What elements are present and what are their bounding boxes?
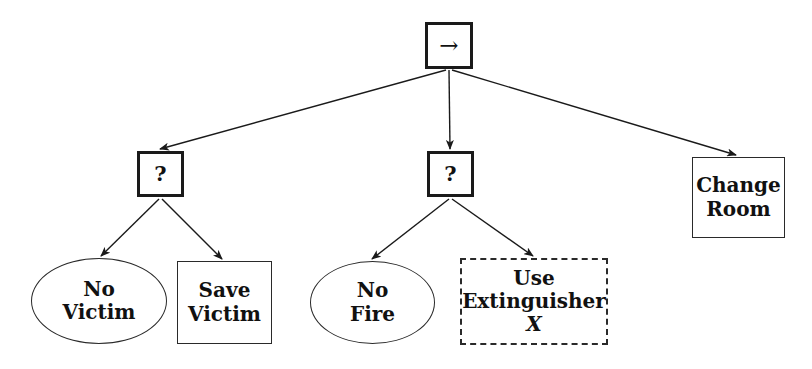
edge-root-to-change-room <box>452 70 736 155</box>
node-label: ? <box>154 162 166 186</box>
node-no-victim[interactable]: No Victim <box>31 258 167 344</box>
node-label-text: Use Extinguisher <box>462 266 606 313</box>
diagram-canvas: → ? ? Change Room No Victim Save Victim … <box>0 0 812 369</box>
node-label: No Victim <box>63 278 136 324</box>
node-label-variable: X <box>526 312 542 336</box>
edge-decision-victim-to-save-victim <box>162 199 222 259</box>
node-label: Save Victim <box>188 279 261 325</box>
node-no-fire[interactable]: No Fire <box>310 261 435 344</box>
node-decision-victim[interactable]: ? <box>137 151 184 197</box>
node-save-victim[interactable]: Save Victim <box>177 261 272 344</box>
node-label: Change Room <box>696 174 781 220</box>
node-label: ? <box>444 162 456 186</box>
edge-root-to-decision-fire <box>449 70 450 149</box>
node-decision-fire[interactable]: ? <box>427 151 474 197</box>
node-label: Use ExtinguisherX <box>462 267 606 337</box>
right-arrow-icon: → <box>439 32 458 59</box>
node-use-extinguisher[interactable]: Use ExtinguisherX <box>460 258 608 345</box>
edge-root-to-decision-victim <box>160 70 446 149</box>
node-change-room[interactable]: Change Room <box>692 157 785 238</box>
edge-decision-fire-to-use-extinguisher <box>452 199 533 256</box>
edge-decision-victim-to-no-victim <box>101 199 159 256</box>
node-label: No Fire <box>350 279 395 325</box>
node-root[interactable]: → <box>425 22 473 69</box>
edge-decision-fire-to-no-fire <box>372 199 449 259</box>
